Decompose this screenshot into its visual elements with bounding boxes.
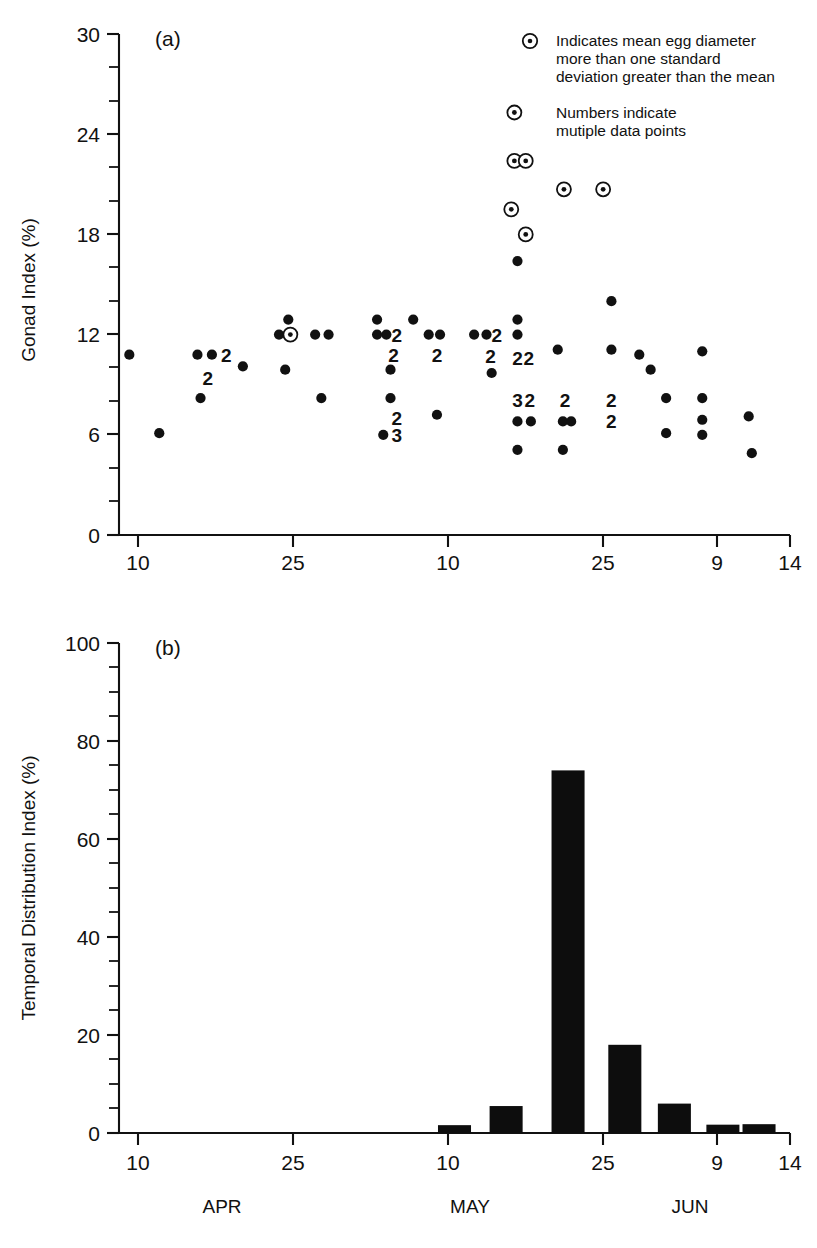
panel-a-y-minor-ticks xyxy=(109,67,119,501)
multiple-points-count: 2 xyxy=(202,368,213,389)
panel-b-x-ticks: 10 25 10 25 9 14 xyxy=(126,1133,802,1174)
multiple-points-count: 2 xyxy=(525,390,536,411)
bar xyxy=(552,770,585,1133)
panel-b-ytick-80: 80 xyxy=(77,730,100,753)
multiple-points-count: 2 xyxy=(524,348,535,369)
panel-b-y-axis-title: Temporal Distribution Index (%) xyxy=(18,755,39,1020)
legend-entry1-line1: Indicates mean egg diameter xyxy=(556,32,756,49)
data-point-circled-center xyxy=(509,207,514,212)
data-point-filled xyxy=(207,350,217,360)
data-point-circled-center xyxy=(523,232,528,237)
data-point-filled xyxy=(566,416,576,426)
multiple-points-count: 2 xyxy=(432,345,443,366)
month-label-may: MAY xyxy=(450,1196,490,1217)
data-point-filled xyxy=(634,350,644,360)
multiple-points-count: 3 xyxy=(391,425,402,446)
panel-a-ytick-0: 0 xyxy=(88,524,100,547)
data-point-filled xyxy=(697,415,707,425)
data-point-filled xyxy=(512,256,522,266)
panel-b-ytick-20: 20 xyxy=(77,1024,100,1047)
data-point-filled xyxy=(424,330,434,340)
data-point-filled xyxy=(697,346,707,356)
bar xyxy=(608,1045,641,1133)
panel-b: Temporal Distribution Index (%) (b) 100 … xyxy=(18,632,802,1217)
panel-a-xtick-5: 14 xyxy=(778,551,802,574)
panel-b-xtick-2: 10 xyxy=(436,1151,459,1174)
data-point-filled xyxy=(283,314,293,324)
figure-svg: Gonad Index (%) (a) 30 24 18 12 6 0 xyxy=(0,0,817,1248)
figure-container: Gonad Index (%) (a) 30 24 18 12 6 0 xyxy=(0,0,817,1248)
bar xyxy=(658,1104,691,1133)
multiple-points-count: 2 xyxy=(606,411,617,432)
data-point-filled xyxy=(512,314,522,324)
legend-entry1-line2: more than one standard xyxy=(556,50,721,67)
data-point-filled xyxy=(646,365,656,375)
data-point-filled xyxy=(385,393,395,403)
data-point-filled xyxy=(747,448,757,458)
panel-a-xtick-3: 25 xyxy=(591,551,614,574)
bar xyxy=(438,1125,471,1133)
data-point-filled xyxy=(192,350,202,360)
multiple-points-count: 2 xyxy=(512,348,523,369)
data-point-filled xyxy=(435,330,445,340)
legend-entry2-line1: Numbers indicate xyxy=(556,104,677,121)
bar xyxy=(743,1124,776,1133)
data-point-filled xyxy=(512,416,522,426)
panel-b-month-labels: APR MAY JUN xyxy=(202,1196,708,1217)
data-point-filled xyxy=(744,411,754,421)
data-point-circled-center xyxy=(523,159,528,164)
panel-b-ytick-100: 100 xyxy=(65,632,100,655)
panel-a-legend: Indicates mean egg diameter more than on… xyxy=(523,32,775,139)
data-point-filled xyxy=(323,330,333,340)
data-point-filled xyxy=(697,393,707,403)
data-point-filled xyxy=(124,350,134,360)
panel-a-ytick-30: 30 xyxy=(77,23,100,46)
legend-entry1-line3: deviation greater than the mean xyxy=(556,68,775,85)
data-point-filled xyxy=(512,330,522,340)
data-point-filled xyxy=(385,365,395,375)
multiple-points-count: 3 xyxy=(512,390,523,411)
data-point-filled xyxy=(487,368,497,378)
data-point-filled xyxy=(195,393,205,403)
data-point-filled xyxy=(238,361,248,371)
bar xyxy=(706,1125,739,1133)
multiple-points-count: 2 xyxy=(492,325,503,346)
data-point-circled-center xyxy=(601,187,606,192)
panel-b-ytick-40: 40 xyxy=(77,926,100,949)
panel-a-xtick-4: 9 xyxy=(711,551,723,574)
data-point-filled xyxy=(408,314,418,324)
multiple-points-count: 2 xyxy=(391,325,402,346)
multiple-points-count: 2 xyxy=(388,345,399,366)
month-label-jun: JUN xyxy=(672,1196,709,1217)
bar xyxy=(490,1106,523,1133)
data-point-filled xyxy=(606,296,616,306)
panel-b-y-minor-ticks xyxy=(109,667,119,1108)
data-point-filled xyxy=(310,330,320,340)
data-point-filled xyxy=(606,345,616,355)
month-label-apr: APR xyxy=(202,1196,241,1217)
panel-a-xtick-2: 10 xyxy=(436,551,459,574)
panel-b-letter: (b) xyxy=(155,636,181,659)
multiple-points-count: 2 xyxy=(221,345,232,366)
panel-b-ytick-60: 60 xyxy=(77,828,100,851)
multiple-points-count: 2 xyxy=(485,346,496,367)
data-point-filled xyxy=(372,314,382,324)
panel-b-ytick-0: 0 xyxy=(88,1122,100,1145)
panel-a-x-ticks: 10 25 10 25 9 14 xyxy=(126,535,802,574)
panel-a-ytick-24: 24 xyxy=(77,123,101,146)
panel-b-xtick-0: 10 xyxy=(126,1151,149,1174)
panel-b-xtick-4: 9 xyxy=(711,1151,723,1174)
data-point-filled xyxy=(481,330,491,340)
data-point-circled-center xyxy=(288,332,293,337)
data-point-filled xyxy=(469,330,479,340)
multiple-points-count: 2 xyxy=(560,390,571,411)
data-point-filled xyxy=(316,393,326,403)
panel-a-scatter-points: 2222232222232222 xyxy=(124,105,757,458)
data-point-circled-center xyxy=(512,159,517,164)
panel-a-letter: (a) xyxy=(155,27,181,50)
data-point-filled xyxy=(526,416,536,426)
panel-b-xtick-1: 25 xyxy=(281,1151,304,1174)
data-point-filled xyxy=(381,330,391,340)
panel-a-ytick-6: 6 xyxy=(88,423,100,446)
data-point-filled xyxy=(558,445,568,455)
